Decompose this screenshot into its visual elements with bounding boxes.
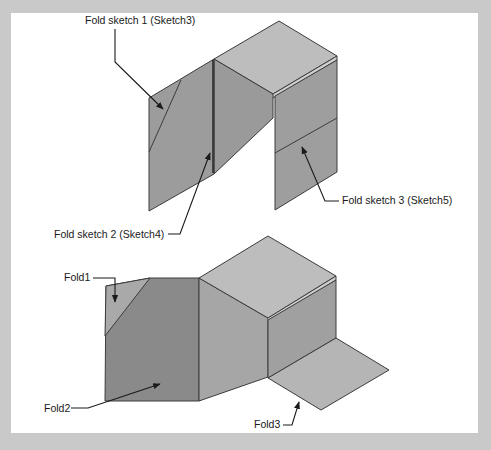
callout-fold3: Fold3 bbox=[254, 402, 299, 430]
left-flap bbox=[149, 59, 214, 211]
svg-text:Fold sketch 1 (Sketch3): Fold sketch 1 (Sketch3) bbox=[85, 14, 195, 26]
svg-text:Fold3: Fold3 bbox=[254, 418, 280, 430]
bottom-diagram bbox=[105, 236, 389, 410]
svg-text:Fold2: Fold2 bbox=[44, 402, 70, 414]
svg-text:Fold sketch 3 (Sketch5): Fold sketch 3 (Sketch5) bbox=[342, 194, 452, 206]
svg-text:Fold sketch 2 (Sketch4): Fold sketch 2 (Sketch4) bbox=[54, 228, 164, 240]
sheet-metal-fold-diagram: Fold sketch 1 (Sketch3) Fold sketch 2 (S… bbox=[0, 0, 491, 450]
svg-text:Fold1: Fold1 bbox=[64, 271, 90, 283]
top-diagram bbox=[149, 21, 337, 211]
